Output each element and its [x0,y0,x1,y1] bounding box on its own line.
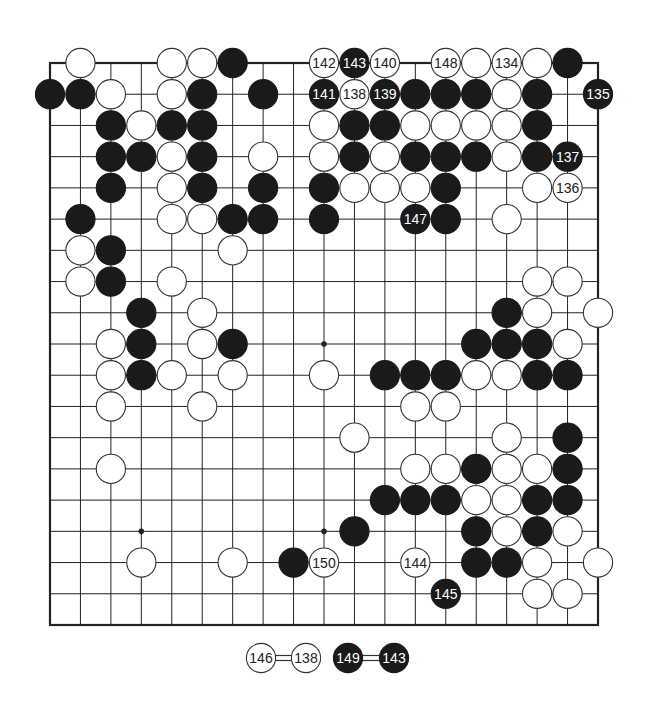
stone-black-139: 139 [370,80,399,109]
stone-black [492,329,521,358]
stone-white [492,80,521,109]
white-stone-icon [431,111,460,140]
black-stone-icon [462,329,491,358]
stone-white [431,454,460,483]
black-stone-icon [492,329,521,358]
black-stone-icon [340,142,369,171]
black-stone-icon [431,142,460,171]
black-stone-icon [462,80,491,109]
stone-black [249,205,278,234]
black-stone-icon [523,517,552,546]
white-stone-icon [431,392,460,421]
stone-white [583,298,612,327]
stone-white [96,454,125,483]
white-stone-icon [96,80,125,109]
stone-black [340,142,369,171]
stone-white [157,48,186,77]
black-stone-icon [553,486,582,515]
black-stone-icon [127,329,156,358]
stone-white [157,142,186,171]
black-stone-icon [553,361,582,390]
black-stone-icon [462,517,491,546]
white-stone-icon [157,205,186,234]
white-stone-icon [157,361,186,390]
stone-black [96,142,125,171]
white-stone-icon [401,173,430,202]
black-stone-icon [431,486,460,515]
stone-white-136: 136 [553,173,582,202]
white-stone-icon [401,392,430,421]
star-point [139,529,145,535]
go-board: 1421431401481341411381391351371361471501… [0,0,652,706]
black-stone-icon [523,361,552,390]
stone-black [96,267,125,296]
black-stone-icon [309,205,338,234]
black-stone-icon [96,236,125,265]
stone-white [401,392,430,421]
black-stone-icon [340,111,369,140]
stone-white [188,329,217,358]
stone-white [492,142,521,171]
white-stone-icon [462,486,491,515]
black-stone-icon [249,173,278,202]
stone-black [553,486,582,515]
black-stone-icon [431,205,460,234]
stone-white [66,236,95,265]
white-stone-icon [370,142,399,171]
stone-black [127,298,156,327]
white-stone-icon [188,48,217,77]
white-stone-icon [401,111,430,140]
black-stone-icon [188,111,217,140]
move-number: 135 [586,86,610,102]
stone-white [462,111,491,140]
stone-white [492,423,521,452]
stone-black [492,298,521,327]
black-stone-icon [35,80,64,109]
black-stone-icon [462,142,491,171]
black-stone-icon [66,205,95,234]
black-stone-icon [96,142,125,171]
move-number: 143 [382,650,406,666]
white-stone-icon [157,267,186,296]
stone-white [127,548,156,577]
stone-white-144: 144 [401,548,430,577]
black-stone-icon [401,80,430,109]
white-stone-icon [218,236,247,265]
stone-white [401,111,430,140]
stone-black [309,173,338,202]
white-stone-icon [462,111,491,140]
stone-black [431,80,460,109]
black-stone-icon [492,298,521,327]
stone-white [553,517,582,546]
white-stone-icon [96,329,125,358]
stone-white-148: 148 [431,48,460,77]
stone-black [370,486,399,515]
stone-white [157,80,186,109]
stone-black [523,80,552,109]
white-stone-icon [553,579,582,608]
stone-white [370,142,399,171]
move-number: 134 [495,55,519,71]
stone-white [188,392,217,421]
black-stone-icon [96,111,125,140]
stone-white [218,548,247,577]
black-stone-icon [66,80,95,109]
stone-black [523,361,552,390]
stone-white [309,361,338,390]
stone-black [66,205,95,234]
black-stone-icon [553,423,582,452]
black-stone-icon [188,142,217,171]
stone-black [462,548,491,577]
stone-white [66,267,95,296]
stone-white [157,173,186,202]
white-stone-icon [583,548,612,577]
stone-white [309,111,338,140]
white-stone-icon [96,454,125,483]
stone-white [462,48,491,77]
stone-black [66,80,95,109]
white-stone-icon [523,48,552,77]
stone-white [492,361,521,390]
stone-black [188,142,217,171]
black-stone-icon [553,454,582,483]
stone-black [431,486,460,515]
